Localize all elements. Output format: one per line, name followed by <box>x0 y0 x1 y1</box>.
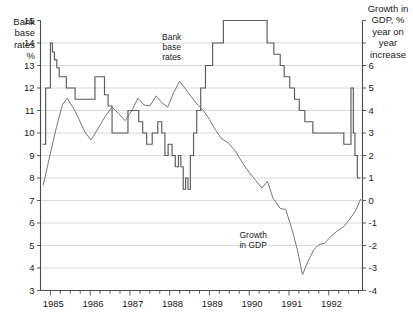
right-axis-title-line-1: GDP, % <box>371 14 405 25</box>
x-tick-label-1985: 1985 <box>43 298 64 309</box>
left-tick-label-4: 4 <box>29 262 34 273</box>
x-tick-label-1986: 1986 <box>82 298 103 309</box>
left-axis-title-line-3: % <box>27 50 36 61</box>
right-axis-title-line-4: increase <box>370 49 406 60</box>
right-axis-title-line-0: Growth in <box>368 3 409 14</box>
x-tick-label-1989: 1989 <box>202 298 223 309</box>
left-tick-label-3: 3 <box>29 285 34 296</box>
right-tick-label--1: -1 <box>369 217 377 228</box>
x-tick-label-1988: 1988 <box>162 298 183 309</box>
left-axis-title-line-0: Bank <box>13 16 35 27</box>
right-tick-label-0: 0 <box>369 195 374 206</box>
right-tick-label-2: 2 <box>369 150 374 161</box>
left-axis-title-line-2: rates <box>14 39 35 50</box>
gridlines-group <box>41 43 363 268</box>
right-tick-label-6: 6 <box>369 60 374 71</box>
right-axis-title-line-2: year on <box>372 26 404 37</box>
left-tick-label-5: 5 <box>29 240 34 251</box>
growth-in-gdp-label-line-1: in GDP <box>239 240 267 250</box>
left-tick-label-11: 11 <box>25 105 35 116</box>
left-tick-label-9: 9 <box>29 150 34 161</box>
right-tick-label-3: 3 <box>369 127 374 138</box>
bank-base-rates-label-line-0: Bank <box>162 32 182 42</box>
x-tick-label-1992: 1992 <box>321 298 342 309</box>
x-tick-label-1987: 1987 <box>122 298 143 309</box>
right-axis-title-line-3: year <box>379 37 397 48</box>
left-tick-label-13: 13 <box>24 60 35 71</box>
right-tick-label-4: 4 <box>369 105 374 116</box>
left-tick-label-12: 12 <box>24 82 35 93</box>
chart-svg: 15141312111098765436543210-1-2-3-4198519… <box>0 0 413 319</box>
right-tick-label-5: 5 <box>369 82 374 93</box>
right-tick-label-1: 1 <box>369 172 374 183</box>
x-tick-label-1990: 1990 <box>241 298 262 309</box>
left-tick-label-8: 8 <box>29 172 34 183</box>
chart-container: 15141312111098765436543210-1-2-3-4198519… <box>0 0 413 319</box>
left-tick-label-10: 10 <box>24 127 35 138</box>
right-tick-label--2: -2 <box>369 240 377 251</box>
left-axis-title-line-1: base <box>14 27 35 38</box>
bank-base-rates-label-line-2: rates <box>162 52 181 62</box>
right-tick-label--4: -4 <box>369 285 377 296</box>
axes-group <box>37 21 366 296</box>
bank-base-rates-label-line-1: base <box>162 42 181 52</box>
right-tick-label--3: -3 <box>369 262 377 273</box>
series-group <box>42 21 360 275</box>
x-tick-label-1991: 1991 <box>281 298 302 309</box>
left-tick-label-6: 6 <box>29 217 34 228</box>
series-bank-base-rates <box>42 21 360 190</box>
growth-in-gdp-label-line-0: Growth <box>239 230 267 240</box>
left-tick-label-7: 7 <box>29 195 34 206</box>
